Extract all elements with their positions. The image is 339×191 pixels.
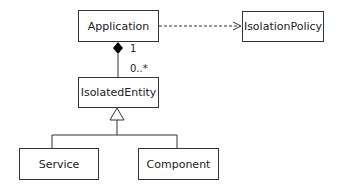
multiplicity-source: 1: [130, 43, 136, 54]
class-isolated-entity: IsolatedEntity: [78, 77, 159, 108]
multiplicity-target: 0..*: [130, 63, 148, 74]
class-isolation-policy: IsolationPolicy: [242, 11, 324, 42]
class-component: Component: [138, 148, 219, 180]
class-application: Application: [78, 10, 159, 42]
class-service: Service: [19, 148, 99, 180]
